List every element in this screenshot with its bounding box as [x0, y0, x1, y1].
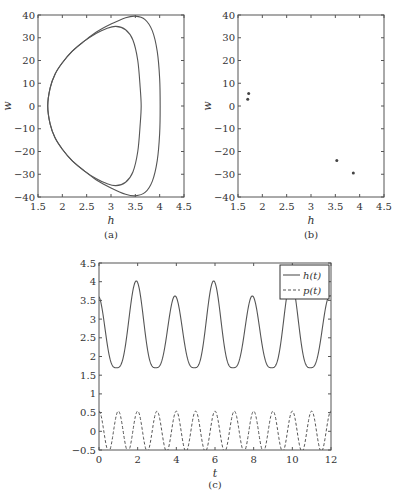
y-tick-label: −40	[14, 192, 35, 203]
y-tick-label: 4	[90, 276, 96, 287]
y-tick-label: 2	[90, 351, 96, 362]
orbit-curve	[48, 16, 160, 196]
x-tick-label: 2.5	[279, 201, 295, 212]
scatter-point	[335, 159, 338, 162]
caption: (c)	[208, 479, 222, 490]
x-tick-label: 0	[96, 454, 102, 465]
x-tick-label: 2.5	[79, 201, 95, 212]
axes-frame	[238, 15, 384, 197]
y-tick-label: 0	[90, 426, 96, 437]
y-tick-label: −10	[214, 123, 235, 134]
x-tick-label: 4	[356, 201, 362, 212]
y-axis-label: w	[1, 101, 14, 111]
x-tick-label: 6	[212, 454, 218, 465]
p-curve	[99, 411, 331, 451]
y-tick-label: 3	[90, 314, 96, 325]
caption: (b)	[304, 229, 318, 240]
y-tick-label: 30	[222, 32, 235, 43]
x-tick-label: 2	[259, 201, 265, 212]
y-tick-label: −20	[214, 146, 235, 157]
plot-c: 024681012−0.500.511.522.533.544.5t(c)h(t…	[72, 258, 338, 491]
x-tick-label: 4.5	[376, 201, 392, 212]
x-tick-label: 3	[308, 201, 314, 212]
y-tick-label: −10	[14, 123, 35, 134]
y-tick-label: 4.5	[80, 258, 96, 269]
caption: (a)	[104, 229, 118, 240]
x-axis-label: h	[107, 214, 114, 227]
x-tick-label: 2	[134, 454, 140, 465]
x-tick-label: 2	[59, 201, 65, 212]
x-tick-label: 8	[250, 454, 256, 465]
legend-label-p: p(t)	[303, 285, 321, 296]
y-tick-label: 1.5	[80, 370, 96, 381]
y-tick-label: 1	[90, 388, 96, 399]
figure: 1.522.533.544.5−40−30−20−10010203040hw(a…	[0, 0, 398, 495]
x-tick-label: 4	[156, 201, 162, 212]
y-tick-label: −30	[14, 169, 35, 180]
scatter-point	[247, 92, 250, 95]
y-tick-label: 0	[29, 101, 35, 112]
y-tick-label: 2.5	[80, 332, 96, 343]
y-tick-label: 10	[22, 78, 35, 89]
x-tick-label: 1.5	[30, 201, 46, 212]
axes-frame	[38, 15, 184, 197]
y-tick-label: −30	[214, 169, 235, 180]
legend: h(t)p(t)	[280, 265, 329, 299]
plot-a: 1.522.533.544.5−40−30−20−10010203040hw(a…	[1, 10, 192, 241]
scatter-point	[246, 98, 249, 101]
y-axis-label: w	[201, 101, 214, 111]
x-tick-label: 3.5	[127, 201, 143, 212]
y-tick-label: 0.5	[80, 407, 96, 418]
scatter-point	[352, 172, 355, 175]
x-axis-label: h	[307, 214, 314, 227]
y-tick-label: 30	[22, 32, 35, 43]
legend-label-h: h(t)	[303, 270, 321, 281]
x-tick-label: 10	[286, 454, 299, 465]
y-tick-label: 10	[222, 78, 235, 89]
y-tick-label: 40	[22, 10, 35, 21]
y-tick-label: −40	[214, 192, 235, 203]
y-tick-label: 0	[229, 101, 235, 112]
y-tick-label: −20	[14, 146, 35, 157]
orbit-curve	[48, 26, 141, 185]
x-tick-label: 4	[173, 454, 179, 465]
x-tick-label: 4.5	[176, 201, 192, 212]
y-tick-label: 20	[222, 55, 235, 66]
x-tick-label: 12	[325, 454, 338, 465]
y-tick-label: 40	[222, 10, 235, 21]
y-tick-label: 3.5	[80, 295, 96, 306]
x-tick-label: 3.5	[327, 201, 343, 212]
x-tick-label: 1.5	[230, 201, 246, 212]
x-tick-label: 3	[108, 201, 114, 212]
y-tick-label: 20	[22, 55, 35, 66]
plot-b: 1.522.533.544.5−40−30−20−10010203040hw(b…	[201, 10, 392, 241]
y-tick-label: −0.5	[72, 445, 96, 456]
